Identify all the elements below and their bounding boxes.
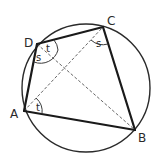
vertex-label-c: C	[107, 14, 115, 28]
vertex-label-a: A	[10, 107, 19, 121]
diagonal-db	[37, 44, 135, 130]
side-ab	[24, 111, 135, 130]
vertex-label-d: D	[24, 36, 33, 50]
angle-label-a-t: t	[36, 102, 40, 113]
vertex-label-b: B	[138, 131, 146, 145]
angle-label-c-s: s	[96, 38, 101, 49]
angle-label-d-s: s	[36, 52, 41, 63]
angle-label-d-t: t	[46, 43, 50, 54]
cyclic-quadrilateral-diagram: s t s t A B C D	[0, 0, 161, 164]
